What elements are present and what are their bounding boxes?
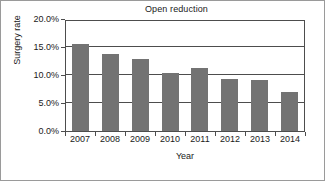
bar [191, 68, 208, 131]
bar-slot [274, 21, 304, 131]
chart-figure: Open reduction Surgery rate 0.0%5.0%10.0… [0, 0, 325, 181]
y-axis-tick-label: 0.0% [1, 127, 59, 136]
bar [221, 79, 238, 131]
x-axis-tick-label: 2014 [275, 134, 305, 150]
chart-title: Open reduction [1, 4, 324, 14]
bar [162, 73, 179, 131]
x-axis-tick-label: 2010 [155, 134, 185, 150]
bar-slot [185, 21, 215, 131]
x-axis-tick-label: 2013 [245, 134, 275, 150]
y-axis-tick-label: 15.0% [1, 43, 59, 52]
x-axis-tick-label: 2007 [65, 134, 95, 150]
y-axis-tick-labels: 0.0%5.0%10.0%15.0%20.0% [1, 20, 65, 132]
y-axis-tick-label: 10.0% [1, 71, 59, 80]
bar-slot [126, 21, 156, 131]
bar-series [66, 21, 304, 131]
bar [251, 80, 268, 131]
x-axis-tick-label: 2008 [95, 134, 125, 150]
bar [72, 44, 89, 131]
x-axis-title: Year [65, 151, 305, 161]
bar [281, 92, 298, 131]
y-axis-tick-label: 5.0% [1, 99, 59, 108]
bar-slot [245, 21, 275, 131]
bar-slot [66, 21, 96, 131]
bar-slot [215, 21, 245, 131]
x-axis-tick-label: 2012 [215, 134, 245, 150]
bar-slot [155, 21, 185, 131]
x-axis-tick-label: 2011 [185, 134, 215, 150]
bar [102, 54, 119, 131]
x-axis-tick-labels: 20072008200920102011201220132014 [65, 134, 305, 150]
bar [132, 59, 149, 131]
y-axis-tick-label: 20.0% [1, 15, 59, 24]
plot-area [65, 20, 305, 132]
x-axis-tick-label: 2009 [125, 134, 155, 150]
bar-slot [96, 21, 126, 131]
x-axis-tick-mark [305, 132, 306, 136]
